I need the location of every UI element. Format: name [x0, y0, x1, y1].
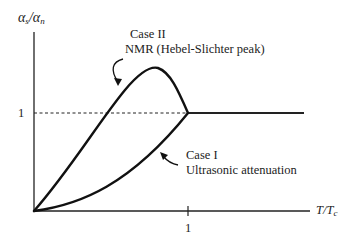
y-axis-label: αs/αn: [18, 11, 45, 28]
case1-ultrasonic-curve: [34, 113, 188, 211]
case2-description: NMR (Hebel-Slichter peak): [125, 42, 265, 56]
x-axis-main: T/T: [316, 203, 333, 217]
x-axis-label: T/Tc: [316, 203, 337, 220]
y-tick-label-1: 1: [18, 106, 24, 120]
x-axis-sub: c: [333, 208, 337, 218]
case1-arrowhead-icon: [160, 152, 168, 160]
y-axis-sep: /α: [29, 10, 40, 25]
x-tick-label-1: 1: [185, 221, 191, 235]
y-axis-sub-n: n: [40, 16, 45, 26]
case2-title: Case II: [130, 27, 166, 41]
diagram-canvas: [0, 0, 349, 246]
case1-description: Ultrasonic attenuation: [186, 163, 297, 177]
case2-arrowhead-icon: [114, 78, 122, 86]
case1-title: Case I: [186, 148, 218, 162]
